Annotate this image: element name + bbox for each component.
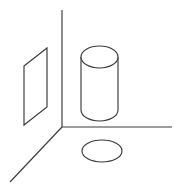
line-drawing-svg — [0, 0, 177, 193]
floor-ellipse-shape — [82, 140, 122, 162]
cylinder-bottom-arc — [81, 110, 118, 121]
cylinder-top-ellipse — [81, 46, 118, 68]
figure-canvas: 3D coordinate corner with rectangular pl… — [0, 0, 177, 193]
depth-axis-line — [10, 127, 62, 182]
rectangular-panel-shape — [24, 48, 47, 125]
